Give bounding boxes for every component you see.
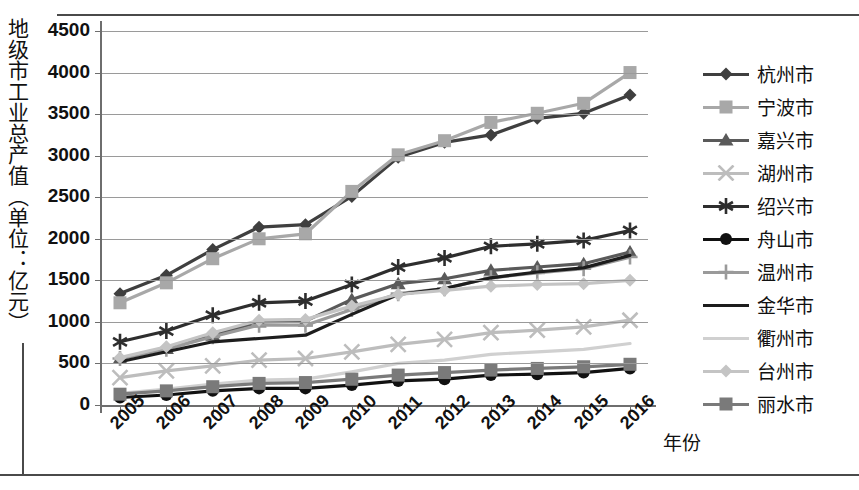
data-point-diamond — [720, 67, 733, 80]
y-axis-tick-label: 0 — [26, 393, 90, 415]
gridline — [102, 322, 648, 323]
y-axis-tick-label: 4500 — [26, 19, 90, 41]
y-tick-mark — [95, 73, 102, 74]
data-point-square — [299, 376, 312, 389]
data-point-diamond — [392, 288, 405, 301]
data-point-triangle — [719, 133, 734, 146]
gridline — [102, 31, 648, 32]
data-point-diamond — [577, 277, 590, 290]
data-point-square — [484, 364, 497, 377]
y-tick-mark — [95, 156, 102, 157]
legend-item-温州市[interactable]: 温州市 — [703, 255, 859, 288]
y-axis-tick-label: 2500 — [26, 185, 90, 207]
legend-marker-diamond-icon — [703, 67, 749, 81]
data-point-square — [206, 252, 219, 265]
y-tick-mark — [95, 405, 102, 406]
y-axis-tick-label: 500 — [26, 351, 90, 373]
legend-label: 绍兴市 — [757, 192, 814, 219]
data-point-square — [438, 366, 451, 379]
data-point-square — [392, 369, 405, 382]
y-tick-mark — [95, 322, 102, 323]
data-point-diamond — [484, 128, 497, 141]
legend-label: 宁波市 — [757, 93, 814, 120]
data-point-square — [253, 377, 266, 390]
y-tick-mark — [95, 114, 102, 115]
data-point-square — [206, 380, 219, 393]
legend-marker-square-icon — [703, 100, 749, 114]
y-axis-tick-label: 1500 — [26, 268, 90, 290]
data-point-square — [438, 134, 451, 147]
data-point-square — [345, 373, 358, 386]
series-金华市 — [120, 255, 630, 361]
legend-label: 嘉兴市 — [757, 126, 814, 153]
y-axis-line — [100, 21, 102, 413]
gridline — [102, 156, 648, 157]
legend-marker-square-icon — [703, 397, 749, 411]
legend-marker-triangle-icon — [703, 133, 749, 147]
data-point-asterisk — [345, 276, 359, 292]
data-point-asterisk — [719, 198, 733, 214]
legend-label: 台州市 — [757, 357, 814, 384]
legend: 杭州市宁波市嘉兴市湖州市绍兴市舟山市温州市金华市衢州市台州市丽水市 — [703, 57, 859, 420]
gridline — [102, 363, 648, 364]
y-tick-mark — [95, 280, 102, 281]
data-point-square — [114, 296, 127, 309]
gridline — [102, 280, 648, 281]
data-point-square — [577, 360, 590, 373]
legend-label: 湖州市 — [757, 159, 814, 186]
data-point-square — [577, 97, 590, 110]
y-tick-mark — [95, 197, 102, 198]
legend-label: 金华市 — [757, 291, 814, 318]
x-axis-title: 年份 — [663, 428, 701, 455]
data-point-square — [484, 116, 497, 129]
left-divider — [22, 343, 24, 474]
legend-item-舟山市[interactable]: 舟山市 — [703, 222, 859, 255]
legend-marker-diamond-icon — [703, 364, 749, 378]
top-divider — [57, 14, 859, 16]
gridline — [102, 239, 648, 240]
legend-item-湖州市[interactable]: 湖州市 — [703, 156, 859, 189]
legend-marker-circle-icon — [703, 232, 749, 246]
data-point-diamond — [720, 364, 733, 377]
legend-marker-x-icon — [703, 166, 749, 180]
legend-item-嘉兴市[interactable]: 嘉兴市 — [703, 123, 859, 156]
legend-item-杭州市[interactable]: 杭州市 — [703, 57, 859, 90]
bottom-divider — [0, 474, 859, 476]
legend-item-衢州市[interactable]: 衢州市 — [703, 321, 859, 354]
gridline — [102, 197, 648, 198]
legend-label: 舟山市 — [757, 225, 814, 252]
gridline — [102, 114, 648, 115]
series-宁波市 — [114, 66, 637, 309]
data-point-diamond — [624, 88, 637, 101]
y-axis-tick-label: 1000 — [26, 310, 90, 332]
legend-item-丽水市[interactable]: 丽水市 — [703, 387, 859, 420]
legend-item-宁波市[interactable]: 宁波市 — [703, 90, 859, 123]
y-axis-tick-label: 3500 — [26, 102, 90, 124]
y-tick-mark — [95, 239, 102, 240]
data-point-x — [719, 165, 734, 180]
data-point-diamond — [253, 221, 266, 234]
data-point-diamond — [484, 280, 497, 293]
y-axis-tick-label: 4000 — [26, 61, 90, 83]
data-series-layer — [102, 31, 648, 405]
data-point-square — [160, 276, 173, 289]
legend-marker-none-icon — [703, 331, 749, 345]
plot-area — [102, 31, 648, 405]
y-axis-tick-label: 3000 — [26, 144, 90, 166]
legend-item-金华市[interactable]: 金华市 — [703, 288, 859, 321]
data-point-diamond — [438, 284, 451, 297]
legend-item-台州市[interactable]: 台州市 — [703, 354, 859, 387]
data-point-plus — [719, 264, 734, 279]
legend-label: 衢州市 — [757, 324, 814, 351]
data-point-square — [720, 397, 733, 410]
legend-marker-none-icon — [703, 298, 749, 312]
data-point-square — [720, 100, 733, 113]
y-tick-mark — [95, 363, 102, 364]
gridline — [102, 73, 648, 74]
series-绍兴市 — [113, 222, 637, 349]
data-point-circle — [720, 233, 732, 245]
data-point-square — [160, 384, 173, 397]
legend-label: 丽水市 — [757, 390, 814, 417]
legend-marker-asterisk-icon — [703, 199, 749, 213]
legend-item-绍兴市[interactable]: 绍兴市 — [703, 189, 859, 222]
